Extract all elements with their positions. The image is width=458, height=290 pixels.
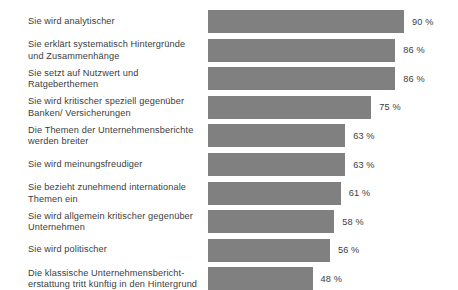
- bar: [208, 210, 334, 233]
- value-label: 90 %: [412, 17, 433, 27]
- bar-row: Sie erklärt systematisch Hintergründe un…: [0, 39, 458, 62]
- bar: [208, 67, 395, 90]
- bar: [208, 182, 341, 205]
- category-label: Sie wird allgemein kritischer gegenüber …: [28, 210, 200, 233]
- value-label: 86 %: [403, 74, 424, 84]
- category-label: Die Themen der Unternehmensberichte werd…: [28, 124, 200, 147]
- category-label: Sie erklärt systematisch Hintergründe un…: [28, 39, 200, 62]
- bar-row: Sie setzt auf Nutzwert und Ratgebertheme…: [0, 67, 458, 90]
- bar-row: Sie wird meinungsfreudiger63 %: [0, 153, 458, 176]
- bar: [208, 239, 330, 262]
- bar-row: Sie wird politischer56 %: [0, 239, 458, 262]
- bar-row: Sie wird analytischer90 %: [0, 10, 458, 33]
- bar-row: Die klassische Unternehmensbericht- erst…: [0, 267, 458, 290]
- bar-row: Sie wird kritischer speziell gegenüber B…: [0, 96, 458, 119]
- category-label: Sie wird kritischer speziell gegenüber B…: [28, 96, 200, 119]
- value-label: 48 %: [321, 274, 342, 284]
- category-label: Die klassische Unternehmensbericht- erst…: [28, 267, 200, 290]
- bar-row: Sie wird allgemein kritischer gegenüber …: [0, 210, 458, 233]
- category-label: Sie wird politischer: [28, 245, 200, 256]
- value-label: 75 %: [379, 102, 400, 112]
- bar: [208, 153, 345, 176]
- value-label: 56 %: [338, 245, 359, 255]
- bar: [208, 10, 404, 33]
- bar-row: Sie bezieht zunehmend internationale The…: [0, 182, 458, 205]
- value-label: 61 %: [349, 188, 370, 198]
- value-label: 63 %: [353, 160, 374, 170]
- category-label: Sie bezieht zunehmend internationale The…: [28, 182, 200, 205]
- bar: [208, 39, 395, 62]
- category-label: Sie wird meinungsfreudiger: [28, 159, 200, 170]
- bar: [208, 96, 371, 119]
- category-label: Sie wird analytischer: [28, 16, 200, 27]
- value-label: 58 %: [342, 217, 363, 227]
- bar: [208, 124, 345, 147]
- category-label: Sie setzt auf Nutzwert und Ratgebertheme…: [28, 67, 200, 90]
- value-label: 86 %: [403, 45, 424, 55]
- bar: [208, 267, 313, 290]
- value-label: 63 %: [353, 131, 374, 141]
- bar-row: Die Themen der Unternehmensberichte werd…: [0, 124, 458, 147]
